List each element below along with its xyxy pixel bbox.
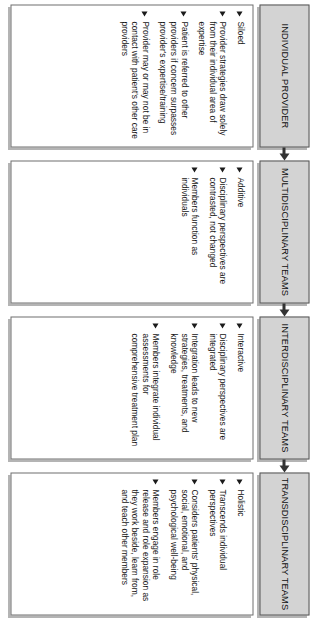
stage-individual-provider[interactable]: INDIVIDUAL PROVIDER Siloed Provider stra… <box>10 4 309 147</box>
triangle-bullet-icon <box>152 323 158 328</box>
triangle-bullet-icon <box>141 11 147 16</box>
list-item: Members integrate individual assessments… <box>129 323 161 451</box>
list-item: Interactive <box>234 323 245 451</box>
bullet-text: Disciplinary perspectives are contrasted… <box>206 177 227 295</box>
stage-body-individual-provider: Siloed Provider strategies draw solely f… <box>10 4 253 147</box>
bullet-text: Provider strategies draw solely from the… <box>196 21 228 139</box>
bullet-text: Integration leads to new strategies, tre… <box>167 333 199 451</box>
arrow-right-icon <box>278 147 289 160</box>
list-item: Disciplinary perspectives are contrasted… <box>206 167 227 295</box>
stage-header-individual-provider: INDIVIDUAL PROVIDER <box>259 4 309 147</box>
triangle-bullet-icon <box>152 479 158 484</box>
bullet-list: Siloed Provider strategies draw solely f… <box>118 11 245 139</box>
triangle-bullet-icon <box>219 479 225 484</box>
triangle-bullet-icon <box>236 479 242 484</box>
arrow-head <box>279 465 289 472</box>
connector-3 <box>10 459 309 472</box>
arrow-right-icon <box>278 303 289 316</box>
arrow-head <box>279 153 289 160</box>
stage-body-multidisciplinary-teams: Additive Disciplinary perspectives are c… <box>10 160 253 303</box>
stage-flow: INDIVIDUAL PROVIDER Siloed Provider stra… <box>0 0 315 623</box>
bullet-text: Disciplinary perspectives are integrated <box>206 333 227 451</box>
bullet-text: Holistic <box>234 489 245 607</box>
bullet-text: Provider may or may not be in contact wi… <box>118 21 150 139</box>
list-item: Additive <box>234 167 245 295</box>
triangle-bullet-icon <box>236 167 242 172</box>
triangle-bullet-icon <box>180 11 186 16</box>
stage-body-interdisciplinary-teams: Interactive Disciplinary perspectives ar… <box>10 316 253 459</box>
list-item: Members function as individuals <box>178 167 199 295</box>
triangle-bullet-icon <box>191 167 197 172</box>
list-item: Holistic <box>234 479 245 607</box>
arrow-head <box>279 309 289 316</box>
list-item: Disciplinary perspectives are integrated <box>206 323 227 451</box>
triangle-bullet-icon <box>236 323 242 328</box>
list-item: Transcends individual perspectives <box>206 479 227 607</box>
stage-title: TRANSDISCIPLINARY TEAMS <box>278 477 290 610</box>
stage-transdisciplinary-teams[interactable]: TRANSDISCIPLINARY TEAMS Holistic Transce… <box>10 472 309 615</box>
stage-header-transdisciplinary-teams: TRANSDISCIPLINARY TEAMS <box>259 472 309 615</box>
arrow-right-icon <box>278 459 289 472</box>
triangle-bullet-icon <box>191 323 197 328</box>
triangle-bullet-icon <box>219 167 225 172</box>
stage-header-interdisciplinary-teams: INTERDISCIPLINARY TEAMS <box>259 316 309 459</box>
stage-header-multidisciplinary-teams: MULTIDISCIPLINARY TEAMS <box>259 160 309 303</box>
triangle-bullet-icon <box>191 479 197 484</box>
list-item: Patient is referred to other providers i… <box>157 11 189 139</box>
stage-multidisciplinary-teams[interactable]: MULTIDISCIPLINARY TEAMS Additive Discipl… <box>10 160 309 303</box>
bullet-list: Holistic Transcends individual perspecti… <box>118 479 245 607</box>
diagram-canvas: INDIVIDUAL PROVIDER Siloed Provider stra… <box>0 0 315 623</box>
connector-1 <box>10 147 309 160</box>
bullet-text: Patient is referred to other providers i… <box>157 21 189 139</box>
bullet-text: Interactive <box>234 333 245 451</box>
list-item: Members engage in role release and role … <box>118 479 160 607</box>
bullet-list: Interactive Disciplinary perspectives ar… <box>129 323 245 451</box>
list-item: Integration leads to new strategies, tre… <box>167 323 199 451</box>
stage-body-transdisciplinary-teams: Holistic Transcends individual perspecti… <box>10 472 253 615</box>
bullet-list: Additive Disciplinary perspectives are c… <box>178 167 245 295</box>
triangle-bullet-icon <box>236 11 242 16</box>
triangle-bullet-icon <box>219 11 225 16</box>
stage-title: INDIVIDUAL PROVIDER <box>278 23 290 128</box>
bullet-text: Members engage in role release and role … <box>118 489 160 607</box>
stage-title: INTERDISCIPLINARY TEAMS <box>278 323 290 452</box>
bullet-text: Members function as individuals <box>178 177 199 295</box>
triangle-bullet-icon <box>219 323 225 328</box>
bullet-text: Members integrate individual assessments… <box>129 333 161 451</box>
list-item: Considers patients' physical, social, em… <box>167 479 199 607</box>
stage-title: MULTIDISCIPLINARY TEAMS <box>278 167 290 295</box>
bullet-text: Siloed <box>234 21 245 139</box>
connector-2 <box>10 303 309 316</box>
list-item: Provider strategies draw solely from the… <box>196 11 228 139</box>
list-item: Provider may or may not be in contact wi… <box>118 11 150 139</box>
stage-interdisciplinary-teams[interactable]: INTERDISCIPLINARY TEAMS Interactive Disc… <box>10 316 309 459</box>
bullet-text: Transcends individual perspectives <box>206 489 227 607</box>
bullet-text: Additive <box>234 177 245 295</box>
bullet-text: Considers patients' physical, social, em… <box>167 489 199 607</box>
list-item: Siloed <box>234 11 245 139</box>
